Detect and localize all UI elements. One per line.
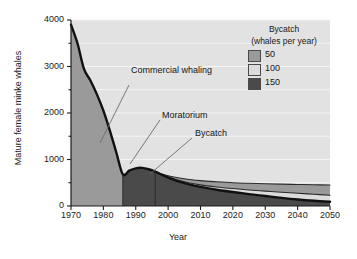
x-tick-label: 2000	[152, 210, 184, 220]
y-tick-label: 4000	[30, 14, 64, 24]
legend-swatch-50	[248, 50, 261, 62]
x-tick-label: 2030	[249, 210, 281, 220]
y-axis-title: Mature female minke whales	[13, 38, 23, 178]
x-tick-label: 2010	[185, 210, 217, 220]
x-tick-label: 2020	[217, 210, 249, 220]
annotation-bycatch: Bycatch	[195, 128, 227, 138]
legend-swatch-100	[248, 64, 261, 76]
annotation-commercial-whaling: Commercial whaling	[131, 65, 212, 75]
legend-title-line1: Bycatch	[232, 24, 336, 34]
x-tick-label: 1980	[87, 210, 119, 220]
legend-swatch-150	[248, 78, 261, 90]
x-tick-label: 2050	[314, 210, 346, 220]
legend-label-150: 150	[265, 77, 280, 87]
y-tick-label: 1000	[30, 154, 64, 164]
x-tick-label: 1990	[120, 210, 152, 220]
annotation-moratorium: Moratorium	[162, 110, 208, 120]
chart-figure: Mature female minke whales Year 19701980…	[0, 0, 357, 259]
x-tick-label: 2040	[282, 210, 314, 220]
x-axis-title: Year	[118, 232, 238, 242]
y-tick-label: 0	[30, 200, 64, 210]
x-tick-label: 1970	[55, 210, 87, 220]
legend-label-50: 50	[265, 49, 275, 59]
y-tick-label: 3000	[30, 61, 64, 71]
y-tick-label: 2000	[30, 107, 64, 117]
legend-label-100: 100	[265, 63, 280, 73]
legend-title-line2: (whales per year)	[222, 36, 346, 46]
